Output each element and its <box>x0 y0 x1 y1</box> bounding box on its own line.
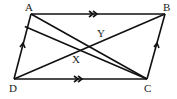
label-d: D <box>9 82 17 94</box>
side-ad <box>14 14 31 79</box>
label-y: Y <box>97 27 105 39</box>
label-b: B <box>163 1 170 13</box>
parallelogram-diagram: A B C D X Y <box>0 0 177 99</box>
side-bc <box>147 14 165 79</box>
label-c: C <box>144 82 151 94</box>
label-a: A <box>25 1 33 13</box>
line-a-x-c <box>31 14 147 79</box>
label-x: X <box>72 53 80 65</box>
